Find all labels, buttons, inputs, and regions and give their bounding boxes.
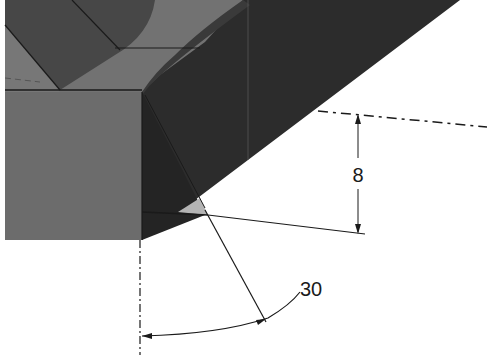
dimension-30-label: 30 <box>300 278 322 300</box>
arrowhead-left-icon <box>142 333 152 339</box>
cad-drawing: 8 30 <box>0 0 487 359</box>
arrowhead-up-icon <box>355 114 361 124</box>
extension-line-bottom <box>208 215 365 234</box>
dashed-reference-line <box>318 111 487 127</box>
angle-extension-line <box>205 210 266 322</box>
dimension-angular <box>140 210 300 355</box>
arrowhead-right-icon <box>256 319 266 325</box>
model-faces <box>5 0 460 240</box>
square-face <box>5 92 142 240</box>
dimension-8-label: 8 <box>352 164 363 186</box>
angle-arc <box>142 292 300 336</box>
